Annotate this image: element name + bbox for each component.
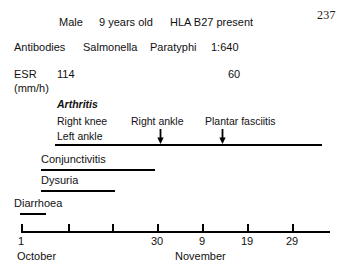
axis-tick-oct-20 [112,224,114,232]
axis-month-november: November [175,251,226,262]
axis-tick-oct-10 [68,224,70,232]
axis-label-oct-1: 1 [18,236,24,247]
clinical-course-figure: 237 Male 9 years old HLA B27 present Ant… [0,0,357,270]
patient-age: 9 years old [99,17,153,28]
event-label-plantar-fasciitis: Plantar fasciitis [205,116,276,127]
duration-bar-dysuria [41,190,115,192]
axis-label-oct-30: 30 [151,236,163,247]
axis-tick-oct-30 [157,224,159,232]
axis-label-nov-29: 29 [286,236,298,247]
event-arrow-right-ankle [156,129,165,145]
arthritis-heading: Arthritis [57,99,98,110]
page-number: 237 [317,9,336,21]
axis-tick-nov-19 [247,224,249,232]
duration-bar-conjunctivitis [41,169,155,171]
antibodies-label: Antibodies [14,42,65,53]
antibodies-serotype: Paratyphi [150,42,196,53]
patient-sex: Male [59,17,83,28]
arthritis-site-right-knee: Right knee [57,116,107,127]
hla-status: HLA B27 present [170,17,253,28]
event-label-right-ankle: Right ankle [131,116,184,127]
esr-value-second: 60 [228,69,240,80]
symptom-label-diarrhoea: Diarrhoea [14,198,62,209]
axis-tick-nov-29 [292,224,294,232]
axis-month-october: October [17,251,56,262]
antibodies-organism: Salmonella [83,42,137,53]
axis-label-nov-9: 9 [199,236,205,247]
event-arrow-plantar-fasciitis [218,129,227,145]
duration-bar-arthritis [55,144,322,146]
axis-label-nov-19: 19 [241,236,253,247]
esr-units: (mm/h) [14,83,49,94]
symptom-label-dysuria: Dysuria [41,175,78,186]
symptom-label-conjunctivitis: Conjunctivitis [41,154,106,165]
axis-tick-nov-9 [202,224,204,232]
arthritis-site-left-ankle: Left ankle [57,131,103,142]
axis-tick-oct-1 [21,224,23,232]
esr-label: ESR [14,69,37,80]
duration-bar-diarrhoea [20,213,46,215]
antibodies-titre: 1:640 [211,42,239,53]
esr-value-first: 114 [57,69,75,80]
